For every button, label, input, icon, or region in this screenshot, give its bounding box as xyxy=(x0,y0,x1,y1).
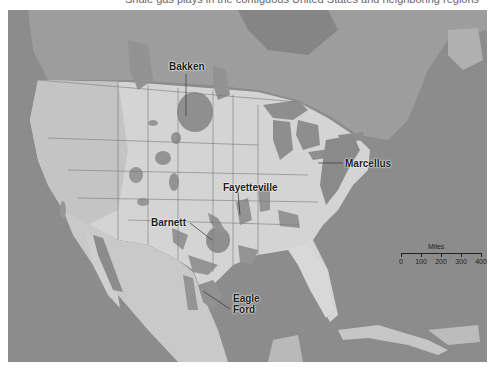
scale-label: 100 xyxy=(415,258,427,265)
label-bakken: Bakken xyxy=(169,61,205,72)
scale-tick xyxy=(461,253,462,257)
label-eagle-ford-line2: Ford xyxy=(233,304,260,315)
label-marcellus: Marcellus xyxy=(345,158,391,169)
label-fayetteville: Fayetteville xyxy=(223,182,277,193)
label-barnett: Barnett xyxy=(151,217,186,228)
label-eagle-ford: Eagle Ford xyxy=(233,293,260,315)
scale-label: 200 xyxy=(435,258,447,265)
scale-title: Miles xyxy=(428,243,444,250)
scale-label: 0 xyxy=(399,258,403,265)
map-caption: Shale gas plays in the contiguous United… xyxy=(125,0,479,5)
scale-label: 400 xyxy=(475,258,487,265)
scale-tick xyxy=(481,253,482,257)
scale-bar: Miles 0 100 200 300 400 xyxy=(393,243,487,273)
shale-plays-map: Bakken Marcellus Fayetteville Barnett Ea… xyxy=(8,10,487,362)
label-eagle-ford-line1: Eagle xyxy=(233,293,260,304)
caption-strip: Shale gas plays in the contiguous United… xyxy=(0,0,495,10)
scale-tick xyxy=(441,253,442,257)
scale-tick xyxy=(401,253,402,257)
scale-tick xyxy=(421,253,422,257)
scale-label: 300 xyxy=(455,258,467,265)
